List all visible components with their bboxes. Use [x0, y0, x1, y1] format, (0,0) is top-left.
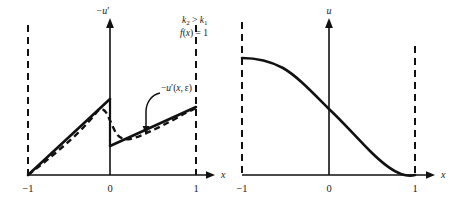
condition-annotation-line2: f(x) = 1: [180, 28, 208, 39]
right-panel-xtick-zero: 0: [326, 183, 331, 194]
left-panel-annotation-leader: [146, 93, 160, 128]
left-panel-xtick-one: 1: [193, 183, 198, 194]
right-panel-x-axis-label: x: [440, 169, 446, 180]
right-panel-xtick-one: 1: [412, 183, 417, 194]
left-panel-limit-curve-right: [110, 107, 196, 146]
figure-svg: −u′(x, ε) −u′ x −1 0 1 k2 > k1 f(x) = 1: [0, 0, 464, 201]
right-panel-y-axis-arrowhead: [325, 18, 333, 28]
left-panel-curve-label: −u′(x, ε): [161, 83, 192, 94]
right-panel-x-axis-arrowhead: [426, 171, 435, 178]
left-panel-xtick-zero: 0: [107, 183, 112, 194]
left-panel-xtick-minus1: −1: [22, 183, 33, 194]
left-panel-x-axis-arrowhead: [206, 171, 215, 178]
condition-annotation: k2 > k1 f(x) = 1: [180, 15, 208, 39]
right-panel: u x −1 0 1: [236, 5, 446, 194]
right-panel-y-axis-label: u: [327, 5, 332, 16]
figure-container: −u′(x, ε) −u′ x −1 0 1 k2 > k1 f(x) = 1: [0, 0, 464, 201]
right-panel-xtick-minus1: −1: [236, 183, 247, 194]
left-panel-limit-curve-left: [28, 99, 110, 175]
left-panel-x-axis-label: x: [220, 169, 226, 180]
left-panel-y-axis-arrowhead: [106, 18, 114, 28]
left-panel-y-axis-label: −u′: [97, 5, 110, 16]
